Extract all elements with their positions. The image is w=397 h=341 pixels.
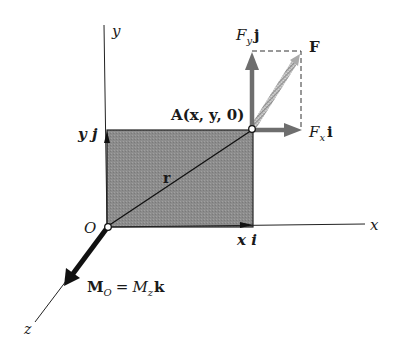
y-axis [104,25,107,227]
z-axis-label: z [23,321,32,337]
origin-marker [105,224,112,231]
origin-label: O [84,219,96,237]
force-x-label: Fxi [308,123,333,143]
moment-diagram: y x z O A(x, y, 0) r y j x i F Fyj Fxi M… [0,0,397,341]
force-resultant-shaft [254,60,296,126]
point-A-marker [249,126,256,133]
force-label: F [309,38,320,56]
x-axis-label: x [370,216,379,234]
force-y-arrowhead-icon [245,52,259,70]
force-x-arrowhead-icon [284,123,302,137]
x-component-label: x i [236,231,257,249]
position-vector-label: r [163,170,171,186]
point-A-label: A(x, y, 0) [170,106,244,124]
y-axis-label: y [111,22,121,40]
force-y-label: Fyj [235,26,260,46]
moment-equation-label: MO=Mzk [87,278,165,298]
y-component-label: y j [77,125,98,143]
